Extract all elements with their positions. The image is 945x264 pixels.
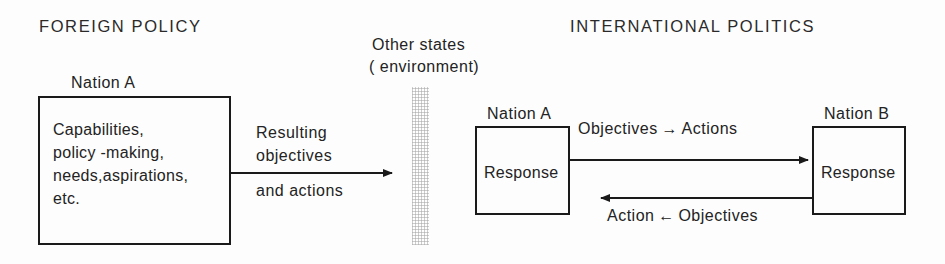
resulting-arrow-label-line3: and actions	[256, 181, 343, 201]
international-nation-a-box-text: Response	[484, 161, 558, 184]
outbound-flow-label: Objectives → Actions	[578, 119, 738, 139]
environment-band	[412, 87, 429, 245]
international-nation-b-label: Nation B	[824, 104, 889, 124]
foreign-policy-box-line-3: needs,aspirations,	[53, 164, 188, 187]
resulting-arrow-label-line1: Resulting	[256, 123, 327, 143]
section-heading-international-politics: INTERNATIONAL POLITICS	[570, 16, 815, 37]
environment-label-line1: Other states	[372, 35, 465, 55]
foreign-policy-box-line-2: policy -making,	[53, 141, 164, 164]
section-heading-foreign-policy: FOREIGN POLICY	[39, 16, 202, 37]
international-nation-a-label: Nation A	[487, 104, 551, 124]
foreign-policy-nation-label: Nation A	[71, 73, 135, 93]
foreign-policy-box-line-1: Capabilities,	[53, 118, 144, 141]
international-nation-b-box-text: Response	[821, 161, 895, 184]
inbound-flow-label: Action ← Objectives	[607, 206, 758, 226]
environment-label-line2: ( environment)	[369, 57, 479, 77]
foreign-policy-box-line-4: etc.	[53, 187, 80, 210]
resulting-arrow-label-line2: objectives	[256, 146, 332, 166]
figure-canvas: FOREIGN POLICY INTERNATIONAL POLITICS Ot…	[0, 0, 945, 264]
